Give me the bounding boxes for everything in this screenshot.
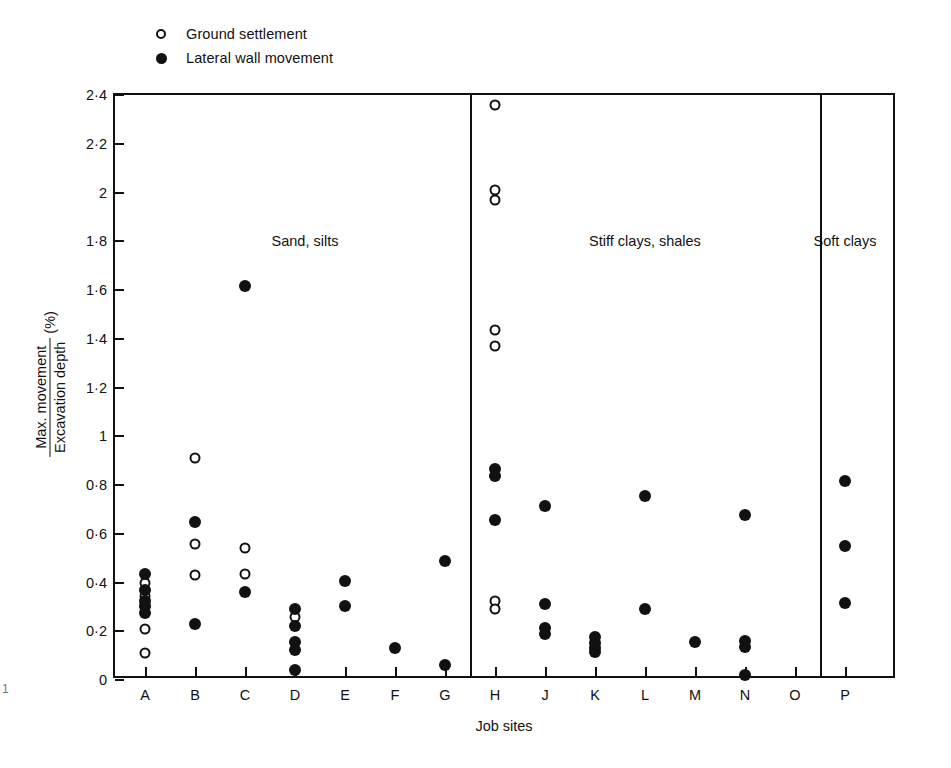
data-point-ground-settlement: [190, 538, 201, 549]
y-axis-tick-label: 0·8: [86, 477, 107, 493]
data-point-lateral-wall-movement: [489, 514, 501, 526]
data-point-lateral-wall-movement: [339, 575, 351, 587]
filled-circle-icon: [150, 53, 172, 64]
y-axis-title-numerator: Max. movement: [33, 338, 50, 457]
y-axis-tick-label: 1·2: [86, 380, 107, 396]
data-point-lateral-wall-movement: [289, 603, 301, 615]
y-axis-tick-label: 2·2: [86, 136, 107, 152]
page-marker: 1: [2, 682, 9, 696]
x-axis-tick-mark: [645, 667, 647, 676]
data-point-ground-settlement: [490, 194, 501, 205]
data-point-ground-settlement: [240, 543, 251, 554]
x-axis-tick-mark: [245, 667, 247, 676]
data-point-lateral-wall-movement: [189, 516, 201, 528]
data-point-lateral-wall-movement: [239, 586, 251, 598]
y-axis-tick-mark: [115, 679, 124, 681]
data-point-lateral-wall-movement: [839, 475, 851, 487]
data-point-lateral-wall-movement: [689, 636, 701, 648]
data-point-lateral-wall-movement: [289, 620, 301, 632]
x-axis-tick-mark: [395, 667, 397, 676]
x-axis-tick-mark: [145, 667, 147, 676]
x-axis-tick-label-a: A: [140, 687, 150, 703]
x-axis-tick-label-e: E: [340, 687, 350, 703]
data-point-lateral-wall-movement: [139, 607, 151, 619]
x-axis-tick-mark: [345, 667, 347, 676]
group-label-stiff-clays-shales: Stiff clays, shales: [589, 233, 701, 249]
y-axis-tick-mark: [115, 94, 124, 96]
y-axis-tick-mark: [115, 582, 124, 584]
data-point-lateral-wall-movement: [339, 600, 351, 612]
y-axis-title-denominator: Excavation depth: [50, 338, 68, 457]
data-point-ground-settlement: [240, 568, 251, 579]
x-axis-tick-mark: [795, 667, 797, 676]
data-point-ground-settlement: [140, 623, 151, 634]
x-axis-tick-mark: [695, 667, 697, 676]
data-point-lateral-wall-movement: [739, 669, 751, 681]
y-axis-tick-label: 1: [99, 428, 107, 444]
data-point-lateral-wall-movement: [839, 597, 851, 609]
y-axis-tick-mark: [115, 192, 124, 194]
data-point-lateral-wall-movement: [439, 555, 451, 567]
x-axis-tick-label-b: B: [190, 687, 200, 703]
data-point-lateral-wall-movement: [189, 618, 201, 630]
data-point-lateral-wall-movement: [289, 644, 301, 656]
figure-scatter-plot: Ground settlement Lateral wall movement …: [0, 0, 951, 768]
data-point-lateral-wall-movement: [139, 568, 151, 580]
y-axis-tick-mark: [115, 630, 124, 632]
y-axis-tick-label: 2·4: [86, 87, 107, 103]
y-axis-tick-label: 0·6: [86, 526, 107, 542]
legend-label-lateral-wall-movement: Lateral wall movement: [186, 50, 333, 66]
x-axis-title: Job sites: [115, 718, 893, 734]
x-axis-tick-mark: [845, 667, 847, 676]
data-point-lateral-wall-movement: [539, 500, 551, 512]
chart-legend: Ground settlement Lateral wall movement: [150, 22, 333, 70]
y-axis-tick-mark: [115, 533, 124, 535]
data-point-ground-settlement: [490, 99, 501, 110]
y-axis-tick-label: 0·4: [86, 575, 107, 591]
legend-item-ground-settlement: Ground settlement: [150, 22, 333, 46]
x-axis-tick-mark: [595, 667, 597, 676]
x-axis-tick-label-m: M: [689, 687, 701, 703]
legend-item-lateral-wall-movement: Lateral wall movement: [150, 46, 333, 70]
data-point-lateral-wall-movement: [489, 470, 501, 482]
data-point-lateral-wall-movement: [839, 540, 851, 552]
x-axis-tick-label-j: J: [541, 687, 548, 703]
data-point-lateral-wall-movement: [739, 509, 751, 521]
group-divider: [820, 95, 822, 676]
data-point-lateral-wall-movement: [239, 280, 251, 292]
data-point-ground-settlement: [490, 604, 501, 615]
data-point-lateral-wall-movement: [539, 628, 551, 640]
data-point-ground-settlement: [490, 341, 501, 352]
x-axis-tick-label-n: N: [740, 687, 750, 703]
y-axis-tick-mark: [115, 289, 124, 291]
y-axis-tick-label: 1·6: [86, 282, 107, 298]
x-axis-tick-label-p: P: [840, 687, 850, 703]
x-axis-tick-label-f: F: [391, 687, 400, 703]
y-axis-title-unit: (%): [41, 311, 57, 334]
x-axis-tick-label-l: L: [641, 687, 649, 703]
x-axis-tick-label-k: K: [590, 687, 600, 703]
y-axis-tick-label: 2: [99, 185, 107, 201]
open-circle-icon: [150, 29, 172, 39]
data-point-lateral-wall-movement: [639, 603, 651, 615]
y-axis-tick-mark: [115, 387, 124, 389]
data-point-lateral-wall-movement: [639, 490, 651, 502]
x-axis-tick-label-o: O: [789, 687, 800, 703]
x-axis-tick-label-g: G: [439, 687, 450, 703]
y-axis-tick-label: 0·2: [86, 623, 107, 639]
data-point-lateral-wall-movement: [389, 642, 401, 654]
data-point-lateral-wall-movement: [289, 664, 301, 676]
data-point-ground-settlement: [140, 648, 151, 659]
data-point-lateral-wall-movement: [539, 598, 551, 610]
y-axis-tick-label: 0: [99, 672, 107, 688]
x-axis-tick-mark: [545, 667, 547, 676]
y-axis-tick-mark: [115, 240, 124, 242]
y-axis-tick-mark: [115, 484, 124, 486]
y-axis-tick-label: 1·8: [86, 233, 107, 249]
y-axis-tick-mark: [115, 338, 124, 340]
data-point-lateral-wall-movement: [739, 641, 751, 653]
plot-area: 00·20·40·60·811·21·41·61·822·22·4ABCDEFG…: [113, 93, 895, 678]
group-label-soft-clays: Soft clays: [814, 233, 877, 249]
y-axis-tick-label: 1·4: [86, 331, 107, 347]
x-axis-tick-mark: [195, 667, 197, 676]
